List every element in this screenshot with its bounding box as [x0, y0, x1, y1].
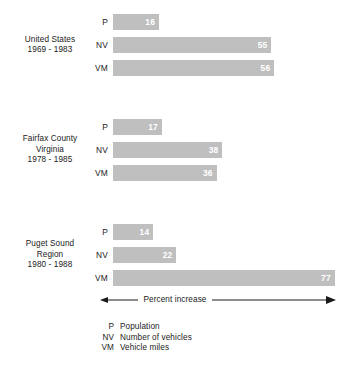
bar-row: P16	[0, 14, 350, 30]
legend-description: Population	[120, 322, 160, 331]
legend-item: NVNumber of vehicles	[97, 333, 192, 344]
bar-value-label: 56	[261, 60, 271, 76]
bar: 55	[113, 37, 271, 53]
bar: 38	[113, 142, 222, 158]
bar-row: P17	[0, 119, 350, 135]
bar: 77	[113, 270, 335, 286]
bar: 17	[113, 119, 162, 135]
series-key-label: VM	[88, 165, 108, 181]
axis-caption-text: Percent increase	[138, 295, 211, 304]
bar: 22	[113, 247, 176, 263]
legend-item: PPopulation	[97, 322, 192, 333]
bar-value-label: 36	[203, 165, 213, 181]
chart-group: Fairfax CountyVirginia1978 - 1985P17NV38…	[0, 119, 350, 181]
legend-item: VMVehicle miles	[97, 343, 192, 354]
bar-row: NV22	[0, 247, 350, 263]
series-key-label: NV	[88, 247, 108, 263]
bar: 14	[113, 224, 153, 240]
bar-value-label: 38	[209, 142, 219, 158]
series-key-label: VM	[88, 270, 108, 286]
bar-value-label: 16	[145, 14, 155, 30]
legend-key: VM	[97, 343, 114, 354]
series-key-label: NV	[88, 37, 108, 53]
series-key-label: VM	[88, 60, 108, 76]
bar-value-label: 22	[163, 247, 173, 263]
bar: 56	[113, 60, 274, 76]
bar: 16	[113, 14, 159, 30]
bar-row: VM36	[0, 165, 350, 181]
legend-description: Number of vehicles	[120, 333, 192, 342]
series-key-label: P	[88, 14, 108, 30]
bar-value-label: 55	[258, 37, 268, 53]
series-key-label: P	[88, 224, 108, 240]
bar: 36	[113, 165, 217, 181]
bar-row: VM77	[0, 270, 350, 286]
bar-row: P14	[0, 224, 350, 240]
series-key-label: P	[88, 119, 108, 135]
bar-row: NV38	[0, 142, 350, 158]
axis-caption: Percent increase	[0, 292, 350, 308]
chart-group: Puget SoundRegion1980 - 1988P14NV22VM77	[0, 224, 350, 286]
legend-key: NV	[97, 333, 114, 344]
series-key-label: NV	[88, 142, 108, 158]
bar-value-label: 17	[148, 119, 158, 135]
bar-row: NV55	[0, 37, 350, 53]
legend-description: Vehicle miles	[120, 343, 169, 352]
bar-chart: United States1969 - 1983P16NV55VM56Fairf…	[0, 0, 350, 373]
bar-row: VM56	[0, 60, 350, 76]
chart-legend: PPopulation NVNumber of vehicles VMVehic…	[97, 322, 192, 354]
bar-value-label: 77	[321, 270, 331, 286]
legend-key: P	[97, 322, 114, 333]
chart-group: United States1969 - 1983P16NV55VM56	[0, 14, 350, 76]
bar-value-label: 14	[140, 224, 150, 240]
